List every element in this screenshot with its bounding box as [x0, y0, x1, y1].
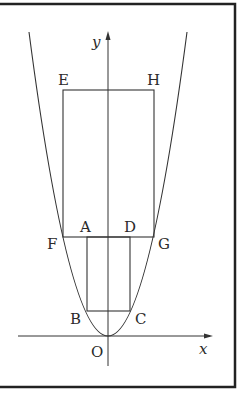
- origin-label: O: [91, 343, 103, 361]
- x-axis-arrow-icon: [204, 334, 213, 339]
- y-axis-arrow-icon: [106, 31, 111, 40]
- diagram-canvas: y x O E H F G A D B C: [0, 0, 243, 400]
- frame-border: [0, 4, 235, 387]
- point-label-b: B: [70, 310, 81, 328]
- point-label-g: G: [158, 235, 170, 253]
- point-label-h: H: [147, 71, 160, 89]
- point-label-f: F: [47, 235, 57, 253]
- point-label-a: A: [79, 218, 91, 236]
- x-axis-label: x: [199, 340, 208, 358]
- point-label-c: C: [135, 310, 146, 328]
- point-label-e: E: [58, 71, 69, 89]
- point-label-d: D: [124, 218, 136, 236]
- y-axis-label: y: [91, 33, 101, 51]
